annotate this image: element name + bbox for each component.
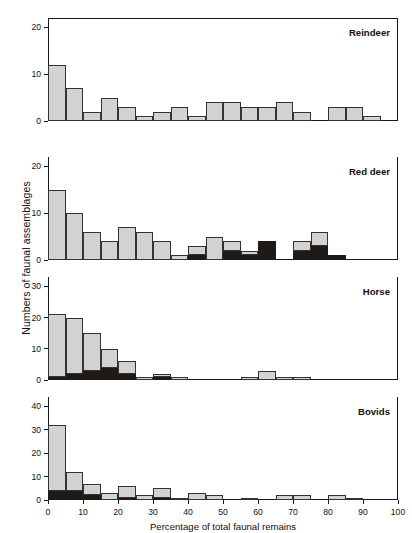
x-tick-label: 0	[46, 507, 51, 517]
bar-segment-light	[241, 498, 259, 500]
x-tick	[188, 500, 189, 504]
x-tick-label: 70	[288, 507, 298, 517]
x-tick-label: 30	[148, 507, 158, 517]
x-tick-label: 100	[391, 507, 405, 517]
bar	[188, 493, 206, 500]
bar-segment-light	[118, 486, 136, 498]
bar	[276, 495, 294, 500]
x-axis-title: Percentage of total faunal remains	[150, 521, 296, 532]
x-tick	[328, 500, 329, 504]
panel-bovids: 010203040Bovids	[0, 0, 412, 533]
x-tick	[223, 500, 224, 504]
bar-segment-light	[136, 495, 154, 500]
x-tick-label: 20	[113, 507, 123, 517]
bar	[153, 488, 171, 500]
x-tick-label: 90	[358, 507, 368, 517]
bar	[118, 486, 136, 500]
y-tick-label: 10	[18, 472, 41, 482]
bar	[293, 495, 311, 500]
y-tick-label: 30	[18, 425, 41, 435]
x-tick	[363, 500, 364, 504]
bar-segment-dark	[83, 495, 101, 500]
bar	[48, 425, 66, 500]
bar-segment-light	[276, 495, 294, 500]
x-tick-label: 10	[78, 507, 88, 517]
bar	[66, 472, 84, 500]
bar-segment-light	[66, 472, 84, 491]
y-tick	[44, 406, 48, 407]
bar-segment-dark	[118, 498, 136, 500]
bar-segment-light	[188, 493, 206, 500]
bar-segment-light	[293, 495, 311, 500]
bar	[328, 495, 346, 500]
x-tick	[48, 500, 49, 504]
y-tick-label: 0	[18, 495, 41, 505]
bar-segment-dark	[66, 491, 84, 500]
x-tick	[118, 500, 119, 504]
x-tick-label: 40	[183, 507, 193, 517]
bar-segment-light	[83, 484, 101, 496]
bar	[101, 493, 119, 500]
x-tick	[398, 500, 399, 504]
figure-histogram-panels: Numbers of faunal assemblages 01020Reind…	[0, 0, 412, 533]
x-tick	[293, 500, 294, 504]
x-tick	[258, 500, 259, 504]
bar-segment-light	[346, 498, 364, 500]
bar	[346, 498, 364, 500]
x-tick-label: 60	[253, 507, 263, 517]
x-tick-label: 50	[218, 507, 228, 517]
bar	[241, 498, 259, 500]
bar-segment-light	[171, 498, 189, 500]
bar-segment-light	[48, 425, 66, 491]
bar-segment-light	[328, 495, 346, 500]
y-tick-label: 20	[18, 448, 41, 458]
bar-segment-dark	[48, 491, 66, 500]
x-tick-label: 80	[323, 507, 333, 517]
bar-segment-light	[153, 488, 171, 497]
bar	[136, 495, 154, 500]
bar-segment-light	[101, 493, 119, 500]
y-tick-label: 40	[18, 401, 41, 411]
x-tick	[153, 500, 154, 504]
bar	[206, 495, 224, 500]
bar	[83, 484, 101, 500]
bar	[171, 498, 189, 500]
x-tick	[83, 500, 84, 504]
bar-segment-light	[206, 495, 224, 500]
bar-segment-dark	[153, 498, 171, 500]
panel-title: Bovids	[270, 406, 390, 417]
